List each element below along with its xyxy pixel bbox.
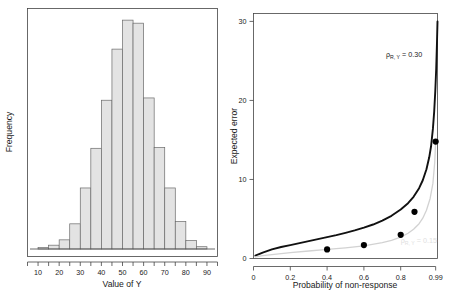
histogram-panel: 102030405060708090 Value of Y Frequency bbox=[0, 0, 226, 300]
histogram-y-axis-title: Frequency bbox=[4, 111, 14, 152]
histogram-svg: 102030405060708090 Value of Y Frequency bbox=[0, 0, 226, 300]
histogram-x-axis: 102030405060708090 bbox=[28, 262, 218, 277]
histogram-bar bbox=[91, 148, 102, 249]
histogram-x-tick-label: 80 bbox=[182, 268, 190, 277]
expected-error-panel: 0102030 00.20.40.60.80.99 ρR, Y = 0.30ρR… bbox=[226, 0, 451, 300]
expected-error-annotations: ρR, Y = 0.30ρR, Y = 0.15 bbox=[386, 50, 437, 246]
histogram-bar bbox=[101, 100, 112, 249]
expected-error-y-tick-label: 0 bbox=[243, 254, 247, 263]
two-panel-figure: 102030405060708090 Value of Y Frequency … bbox=[0, 0, 451, 300]
histogram-x-tick-label: 30 bbox=[76, 268, 84, 277]
histogram-x-tick-label: 20 bbox=[55, 268, 63, 277]
expected-error-x-tick-label: 0 bbox=[252, 273, 256, 282]
expected-error-data-point bbox=[411, 209, 417, 215]
histogram-x-tick-label: 70 bbox=[161, 268, 169, 277]
histogram-x-axis-title: Value of Y bbox=[103, 279, 142, 289]
histogram-bar bbox=[70, 224, 81, 249]
expected-error-data-point bbox=[324, 246, 330, 252]
expected-error-y-tick-label: 10 bbox=[239, 175, 247, 184]
histogram-bar bbox=[80, 188, 91, 249]
histogram-bar bbox=[123, 20, 134, 249]
expected-error-data-point bbox=[433, 138, 439, 144]
histogram-bar bbox=[59, 240, 70, 249]
expected-error-annotation: ρR, Y = 0.30 bbox=[386, 50, 422, 60]
expected-error-y-tick-label: 30 bbox=[239, 17, 247, 26]
histogram-x-tick-label: 40 bbox=[97, 268, 105, 277]
expected-error-svg: 0102030 00.20.40.60.80.99 ρR, Y = 0.30ρR… bbox=[226, 0, 451, 300]
histogram-bar bbox=[144, 98, 155, 249]
expected-error-y-axis-title: Expected error bbox=[229, 108, 239, 165]
histogram-bar bbox=[186, 241, 197, 249]
histogram-x-tick-label: 90 bbox=[203, 268, 211, 277]
histogram-bar bbox=[49, 245, 60, 249]
histogram-x-tick-label: 10 bbox=[34, 268, 42, 277]
histogram-bar bbox=[112, 49, 123, 249]
histogram-bars bbox=[38, 20, 207, 249]
histogram-x-tick-label: 50 bbox=[119, 268, 127, 277]
expected-error-y-axis: 0102030 bbox=[239, 17, 254, 263]
expected-error-annotation: ρR, Y = 0.15 bbox=[401, 236, 437, 246]
expected-error-x-axis-title: Probability of non-response bbox=[293, 280, 398, 290]
expected-error-data-point bbox=[361, 242, 367, 248]
histogram-bar bbox=[133, 23, 144, 249]
histogram-x-tick-label: 60 bbox=[140, 268, 148, 277]
histogram-bar bbox=[165, 188, 176, 249]
histogram-bar bbox=[154, 148, 165, 249]
histogram-bar bbox=[175, 222, 186, 249]
expected-error-y-tick-label: 20 bbox=[239, 96, 247, 105]
expected-error-x-tick-label: 0.99 bbox=[429, 273, 443, 282]
